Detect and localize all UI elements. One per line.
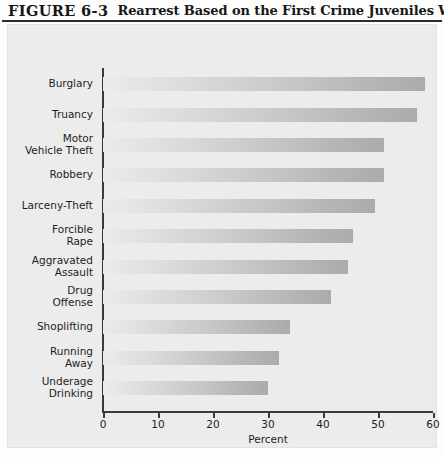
bar-robbery (103, 168, 384, 182)
bar-forcible-rape (103, 229, 353, 243)
bar-row (103, 343, 433, 373)
bar-series (103, 69, 433, 412)
bar-underage-drinking (103, 381, 268, 395)
bar-row (103, 221, 433, 251)
bar-row (103, 312, 433, 342)
title-divider (2, 20, 442, 22)
plot-area (103, 69, 433, 412)
x-tick-label: 50 (371, 418, 384, 430)
y-axis-category-labels: BurglaryTruancyMotorVehicle TheftRobbery… (8, 69, 98, 412)
y-axis-label: Shoplifting (5, 312, 93, 342)
bar-row (103, 251, 433, 281)
bar-burglary (103, 77, 425, 91)
figure-title: FIGURE 6-3 Rearrest Based on the First C… (8, 1, 438, 20)
y-axis-label: DrugOffense (5, 282, 93, 312)
bar-row (103, 99, 433, 129)
x-axis-title: Percent (103, 433, 433, 445)
y-axis-label: Robbery (5, 160, 93, 190)
y-axis-label: AggravatedAssault (5, 251, 93, 281)
figure-number-label: FIGURE 6-3 (8, 2, 108, 19)
y-axis-label: ForcibleRape (5, 221, 93, 251)
bar-motor-vehicle-theft (103, 138, 384, 152)
y-axis-label: MotorVehicle Theft (5, 130, 93, 160)
x-tick-label: 40 (316, 418, 329, 430)
bar-row (103, 373, 433, 403)
bar-shoplifting (103, 320, 290, 334)
x-tick-label: 10 (151, 418, 164, 430)
x-tick-label: 0 (100, 418, 107, 430)
bar-row (103, 282, 433, 312)
figure-container: FIGURE 6-3 Rearrest Based on the First C… (0, 0, 444, 457)
bar-row (103, 191, 433, 221)
x-tick-label: 60 (426, 418, 439, 430)
x-tick-label: 20 (206, 418, 219, 430)
bar-larceny-theft (103, 199, 375, 213)
y-axis-label: UnderageDrinking (5, 373, 93, 403)
bar-row (103, 130, 433, 160)
figure-title-text: Rearrest Based on the First Crime Juveni… (117, 3, 444, 18)
y-axis-label: RunningAway (5, 343, 93, 373)
bar-aggravated-assault (103, 260, 348, 274)
bar-drug-offense (103, 290, 331, 304)
y-axis-label: Truancy (5, 99, 93, 129)
chart-panel: BurglaryTruancyMotorVehicle TheftRobbery… (7, 24, 437, 448)
bar-row (103, 160, 433, 190)
bar-running-away (103, 351, 279, 365)
y-axis-label: Burglary (5, 69, 93, 99)
bar-row (103, 69, 433, 99)
bar-truancy (103, 108, 417, 122)
y-axis-label: Larceny-Theft (5, 191, 93, 221)
x-tick-label: 30 (261, 418, 274, 430)
